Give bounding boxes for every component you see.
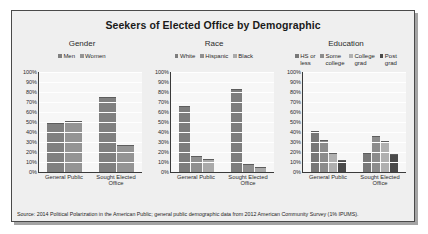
bar[interactable] [191, 156, 202, 172]
gridline [303, 92, 406, 93]
y-axis-tick-label: 50% [158, 119, 169, 125]
y-axis-education: 100%90%80%70%60%50%40%30%20%10%0% [282, 72, 301, 172]
bar[interactable] [381, 141, 389, 172]
y-axis-tick-label: 0% [293, 169, 301, 175]
legend-item-label: HS or less [300, 53, 315, 66]
y-axis-tick-label: 20% [158, 149, 169, 155]
y-axis-tick-label: 0% [29, 169, 37, 175]
x-axis-tick-label: Sought Elected Office [90, 174, 142, 187]
legend-item[interactable]: Hispanic [200, 53, 228, 60]
legend-swatch-icon [58, 54, 62, 58]
gridline [303, 122, 406, 123]
y-axis-tick-label: 100% [23, 69, 37, 75]
chart-figure: Seekers of Elected Office by Demographic… [11, 10, 415, 222]
gridline [171, 142, 274, 143]
y-axis-tick-label: 70% [290, 99, 301, 105]
y-axis-tick-label: 20% [26, 149, 37, 155]
y-axis-tick-label: 100% [155, 69, 169, 75]
legend-item-label: Women [85, 53, 106, 60]
y-axis-tick-label: 40% [290, 129, 301, 135]
y-axis-tick-label: 10% [290, 159, 301, 165]
gridline [303, 142, 406, 143]
gridline [303, 72, 406, 73]
gridline [39, 102, 142, 103]
y-axis-tick-label: 0% [161, 169, 169, 175]
legend-swatch-icon [320, 54, 324, 58]
bar[interactable] [390, 154, 398, 172]
y-axis-tick-label: 90% [290, 79, 301, 85]
x-axis-education: General PublicSought Elected Office [302, 174, 406, 187]
legend-swatch-icon [200, 54, 204, 58]
gridline [39, 132, 142, 133]
gridline [171, 132, 274, 133]
y-axis-tick-label: 70% [158, 99, 169, 105]
plot-area-gender [38, 72, 142, 173]
bar[interactable] [255, 167, 266, 172]
gridline [39, 112, 142, 113]
legend-swatch-icon [380, 54, 384, 58]
gridline [171, 122, 274, 123]
legend-item[interactable]: Black [233, 53, 253, 60]
legend-item-label: College grad [354, 53, 374, 66]
legend-item[interactable]: White [175, 53, 195, 60]
bar[interactable] [203, 159, 214, 172]
bar[interactable] [65, 121, 82, 172]
y-axis-tick-label: 50% [26, 119, 37, 125]
y-axis-tick-label: 80% [290, 89, 301, 95]
legend-swatch-icon [295, 54, 299, 58]
legend-swatch-icon [175, 54, 179, 58]
y-axis-tick-label: 60% [290, 109, 301, 115]
x-axis-race: General PublicSought Elected Office [170, 174, 274, 187]
legend-item[interactable]: Men [58, 53, 75, 60]
x-axis-gender: General PublicSought Elected Office [38, 174, 142, 187]
chart-panel-education: Education HS or lessSome collegeCollege … [280, 39, 412, 209]
gridline [39, 152, 142, 153]
bar[interactable] [99, 97, 116, 172]
legend-gender: MenWomen [16, 53, 148, 60]
panel-title-education: Education [280, 39, 412, 48]
gridline [171, 152, 274, 153]
x-axis-tick-label: General Public [302, 174, 354, 187]
y-axis-tick-label: 50% [290, 119, 301, 125]
gridline [39, 122, 142, 123]
gridline [303, 112, 406, 113]
y-axis-race: 100%90%80%70%60%50%40%30%20%10%0% [150, 72, 169, 172]
bar[interactable] [243, 164, 254, 172]
y-axis-tick-label: 30% [26, 139, 37, 145]
y-axis-tick-label: 10% [158, 159, 169, 165]
legend-item[interactable]: Women [80, 53, 106, 60]
x-axis-tick-label: General Public [170, 174, 222, 187]
legend-item[interactable]: Some college [320, 53, 344, 66]
legend-item-label: Men [63, 53, 75, 60]
legend-item-label: Hispanic [205, 53, 228, 60]
gridline [39, 162, 142, 163]
legend-education: HS or lessSome collegeCollege gradPost g… [280, 53, 412, 66]
y-axis-tick-label: 90% [158, 79, 169, 85]
x-axis-tick-label: Sought Elected Office [222, 174, 274, 187]
y-axis-tick-label: 80% [26, 89, 37, 95]
bar[interactable] [47, 123, 64, 172]
y-axis-tick-label: 70% [26, 99, 37, 105]
y-axis-tick-label: 90% [26, 79, 37, 85]
bar[interactable] [320, 140, 328, 172]
x-axis-tick-label: Sought Elected Office [354, 174, 406, 187]
legend-item[interactable]: HS or less [295, 53, 315, 66]
gridline [39, 82, 142, 83]
y-axis-tick-label: 10% [26, 159, 37, 165]
legend-item-label: Some college [325, 53, 344, 66]
chart-panel-gender: Gender MenWomen 100%90%80%70%60%50%40%30… [16, 39, 148, 209]
gridline [39, 142, 142, 143]
legend-item[interactable]: College grad [349, 53, 374, 66]
legend-item[interactable]: Post grad [380, 53, 397, 66]
gridline [171, 112, 274, 113]
gridline [171, 72, 274, 73]
y-axis-tick-label: 30% [290, 139, 301, 145]
gridline [39, 92, 142, 93]
gridline [303, 162, 406, 163]
gridline [303, 82, 406, 83]
plot-area-education [302, 72, 406, 173]
gridline [39, 72, 142, 73]
y-axis-tick-label: 60% [158, 109, 169, 115]
panel-title-gender: Gender [16, 39, 148, 48]
bar[interactable] [117, 145, 134, 172]
